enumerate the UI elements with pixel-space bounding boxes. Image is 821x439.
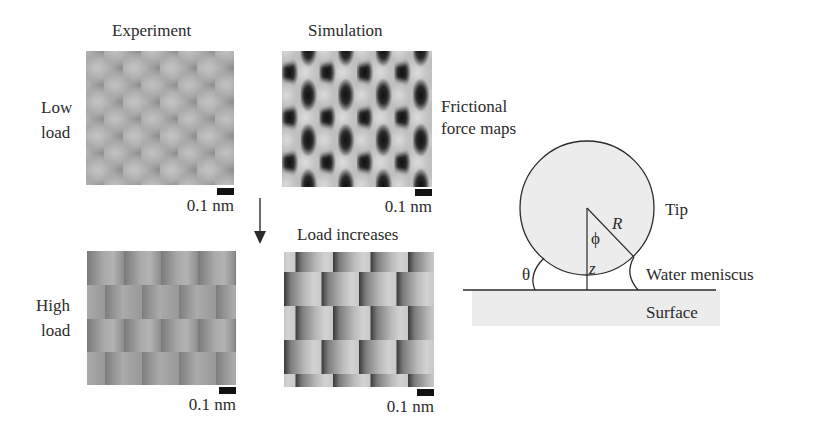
radius-label: R [612, 214, 622, 233]
row-label-high-line2: load [41, 321, 70, 340]
simulation-high-load-row-4 [284, 340, 434, 374]
tip-label: Tip [665, 200, 688, 219]
row-label-low-line1: Low [41, 98, 72, 117]
load-increases-label: Load increases [297, 225, 398, 244]
scale-label-sim-low: 0.1 nm [368, 197, 432, 217]
theta-label: θ [522, 265, 530, 284]
column-title-simulation: Simulation [308, 21, 383, 40]
simulation-low-load-texture [282, 51, 432, 187]
phi-label: ϕ [591, 229, 600, 248]
scale-bar-sim-high [417, 389, 434, 396]
experiment-high-load-texture-odd-rows [87, 285, 236, 319]
scale-bar-exp-high [219, 387, 236, 394]
experiment-low-load-texture [86, 51, 234, 185]
scale-label-exp-high: 0.1 nm [172, 395, 236, 415]
experiment-high-load-map [87, 251, 236, 385]
meniscus-right [630, 257, 638, 290]
simulation-high-load-map [284, 252, 434, 387]
water-meniscus-label: Water meniscus [646, 265, 754, 284]
frictional-force-maps-label: Frictional force maps [441, 97, 516, 138]
scale-label-sim-high: 0.1 nm [370, 397, 434, 417]
frictional-line2: force maps [441, 119, 516, 138]
scale-bar-sim-low [415, 189, 432, 196]
scale-bar-exp-low [217, 188, 234, 195]
scale-label-exp-low: 0.1 nm [170, 196, 234, 216]
z-label: z [589, 259, 596, 278]
row-label-high-load: High load [36, 296, 70, 340]
experiment-low-load-map [86, 51, 234, 185]
surface-label: Surface [646, 303, 698, 322]
simulation-high-load-row-3 [284, 306, 434, 340]
meniscus-left [533, 258, 544, 290]
column-title-experiment: Experiment [112, 21, 191, 40]
row-label-high-line1: High [36, 296, 70, 315]
row-label-low-load: Low load [41, 98, 72, 142]
frictional-line1: Frictional [441, 97, 516, 116]
simulation-low-load-map [282, 51, 432, 187]
simulation-high-load-row-2 [284, 272, 434, 306]
simulation-high-load-row-1 [284, 252, 434, 272]
experiment-high-load-texture-odd-rows-2 [87, 352, 236, 385]
load-increase-arrow-icon [253, 198, 267, 246]
row-label-low-line2: load [41, 123, 72, 142]
simulation-high-load-row-5 [284, 374, 434, 387]
